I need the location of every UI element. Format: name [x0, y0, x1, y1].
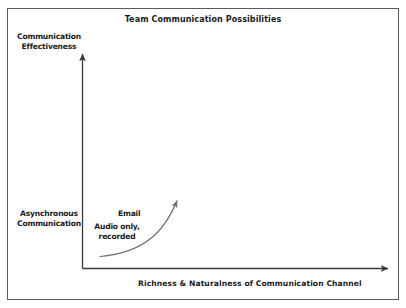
x-axis-label: Richness & Naturalness of Communication …	[138, 279, 362, 289]
asynchronous-communication-label: Asynchronous Communication	[4, 209, 94, 228]
audio-only-recorded-annotation-label: Audio only, recorded	[89, 222, 145, 241]
chart-title: Team Communication Possibilities	[0, 15, 406, 25]
email-annotation-label: Email	[118, 209, 140, 219]
y-axis-label: Communication Effectiveness	[4, 32, 94, 51]
chart-page: Team Communication Possibilities Communi…	[0, 0, 406, 308]
